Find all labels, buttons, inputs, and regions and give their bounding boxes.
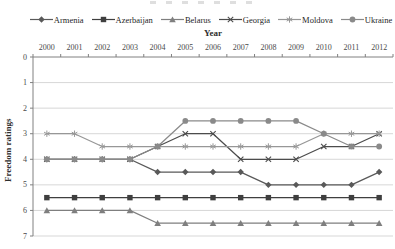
x-tick-label-2004: 2004 [150, 43, 166, 52]
x-tick-label-2000: 2000 [39, 43, 55, 52]
x-tick-label-2009: 2009 [288, 43, 304, 52]
x-tick-label-2005: 2005 [177, 43, 193, 52]
y-tick-label-1: 1 [23, 78, 27, 87]
series-azerbaijan [44, 195, 382, 200]
x-tick-label-2008: 2008 [260, 43, 276, 52]
series-armenia [44, 156, 383, 188]
y-tick-label-2: 2 [23, 104, 27, 113]
x-tick-label-2001: 2001 [67, 43, 83, 52]
series-ukraine [44, 118, 382, 162]
plot-area: 2000200120022003200420052006200720082009… [0, 0, 395, 249]
x-tick-label-2006: 2006 [205, 43, 221, 52]
y-tick-label-3: 3 [23, 129, 27, 138]
x-tick-label-2002: 2002 [94, 43, 110, 52]
y-tick-label-0: 0 [23, 53, 27, 62]
y-tick-label-5: 5 [23, 180, 27, 189]
x-tick-label-2012: 2012 [371, 43, 387, 52]
y-tick-label-4: 4 [23, 155, 27, 164]
x-tick-label-2010: 2010 [316, 43, 332, 52]
x-tick-label-2003: 2003 [122, 43, 138, 52]
x-tick-label-2011: 2011 [344, 43, 360, 52]
y-tick-label-6: 6 [23, 206, 27, 215]
x-tick-label-2007: 2007 [233, 43, 249, 52]
freedom-ratings-chart: ArmeniaAzerbaijanBelarusGeorgiaMoldovaUk… [0, 0, 395, 249]
y-tick-label-7: 7 [23, 232, 27, 241]
